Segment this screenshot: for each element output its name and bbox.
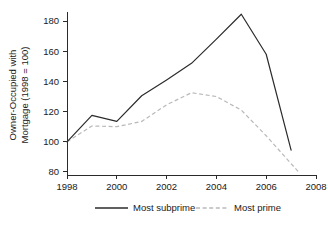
series-line-most-subprime xyxy=(67,14,291,150)
y-axis-title-line2: Mortgage (1998 = 100) xyxy=(19,47,30,144)
y-tick-label: 80 xyxy=(48,166,59,177)
series-line-most-prime xyxy=(67,93,299,172)
y-tick-label: 120 xyxy=(43,106,59,117)
y-tick-label: 140 xyxy=(43,76,59,87)
x-tick-label: 2008 xyxy=(305,181,326,192)
legend-label-most-prime: Most prime xyxy=(234,202,281,213)
y-axis-ticks: 80100120140160180 xyxy=(43,15,67,177)
x-axis-ticks: 199820002002200420062008 xyxy=(56,175,326,192)
legend-label-most-subprime: Most subprime xyxy=(133,202,195,213)
y-axis-title-line1: Owner-Occupied with xyxy=(7,50,18,141)
y-tick-label: 180 xyxy=(43,15,59,26)
chart-legend: Most subprime Most prime xyxy=(95,202,281,213)
x-tick-label: 2004 xyxy=(206,181,227,192)
y-axis-title: Owner-Occupied with Mortgage (1998 = 100… xyxy=(7,47,30,144)
x-tick-label: 2000 xyxy=(106,181,127,192)
y-tick-label: 160 xyxy=(43,46,59,57)
y-tick-label: 100 xyxy=(43,136,59,147)
chart-container: Owner-Occupied with Mortgage (1998 = 100… xyxy=(0,0,328,225)
line-chart: Owner-Occupied with Mortgage (1998 = 100… xyxy=(0,0,328,225)
x-tick-label: 2002 xyxy=(156,181,177,192)
x-tick-label: 2006 xyxy=(256,181,277,192)
x-tick-label: 1998 xyxy=(56,181,77,192)
